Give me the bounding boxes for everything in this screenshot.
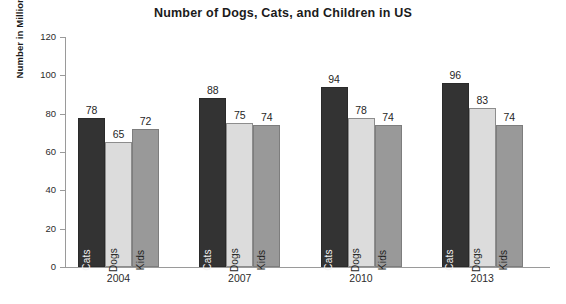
bar-value-label: 72 xyxy=(126,115,166,127)
bar-series-label: Kids xyxy=(135,250,146,270)
bar-series-label: Dogs xyxy=(350,248,361,272)
bar-series-label: Kids xyxy=(498,250,509,270)
y-axis-tick-label: 20 xyxy=(18,223,56,234)
bar-value-label: 83 xyxy=(462,94,502,106)
bar-series-label: Dogs xyxy=(471,248,482,272)
bar-series-label: Kids xyxy=(256,250,267,270)
bar-dogs-2004[interactable]: Dogs xyxy=(105,142,132,267)
bar-dogs-2013[interactable]: Dogs xyxy=(469,108,496,267)
bar-value-label: 78 xyxy=(72,104,112,116)
chart-title: Number of Dogs, Cats, and Children in US xyxy=(0,6,566,20)
x-axis-category-2010: 2010 xyxy=(301,272,421,284)
bar-kids-2004[interactable]: Kids xyxy=(132,129,159,267)
y-axis-tick-label: 120 xyxy=(18,31,56,42)
bar-kids-2013[interactable]: Kids xyxy=(496,125,523,267)
bar-dogs-2007[interactable]: Dogs xyxy=(226,123,253,267)
x-axis-category-2013: 2013 xyxy=(422,272,542,284)
bar-series-label: Kids xyxy=(377,250,388,270)
plot-area: Cats78Dogs65Kids72Cats88Dogs75Kids74Cats… xyxy=(65,37,550,267)
x-axis-category-2004: 2004 xyxy=(59,272,179,284)
bar-kids-2007[interactable]: Kids xyxy=(253,125,280,267)
y-axis-title: Number in Millions xyxy=(14,0,28,110)
bar-chart: Number of Dogs, Cats, and Children in US… xyxy=(0,0,566,304)
bar-value-label: 88 xyxy=(193,84,233,96)
bar-value-label: 74 xyxy=(489,111,529,123)
bar-value-label: 94 xyxy=(314,73,354,85)
y-axis-tick-label: 40 xyxy=(18,184,56,195)
y-axis-tick-label: 0 xyxy=(18,261,56,272)
bar-series-label: Cats xyxy=(444,249,455,270)
bar-series-label: Cats xyxy=(323,249,334,270)
y-axis-tick-label: 60 xyxy=(18,146,56,157)
bar-value-label: 96 xyxy=(435,69,475,81)
bar-series-label: Dogs xyxy=(229,248,240,272)
bar-series-label: Dogs xyxy=(108,248,119,272)
y-axis-tick xyxy=(60,267,65,268)
x-axis-category-2007: 2007 xyxy=(180,272,300,284)
bar-dogs-2010[interactable]: Dogs xyxy=(348,118,375,268)
y-axis-tick-label: 80 xyxy=(18,108,56,119)
bar-series-label: Cats xyxy=(202,249,213,270)
bar-cats-2007[interactable]: Cats xyxy=(199,98,226,267)
bar-cats-2013[interactable]: Cats xyxy=(442,83,469,267)
bar-value-label: 74 xyxy=(247,111,287,123)
bar-series-label: Cats xyxy=(81,249,92,270)
bar-kids-2010[interactable]: Kids xyxy=(375,125,402,267)
y-axis-tick-label: 100 xyxy=(18,69,56,80)
bar-value-label: 74 xyxy=(368,111,408,123)
